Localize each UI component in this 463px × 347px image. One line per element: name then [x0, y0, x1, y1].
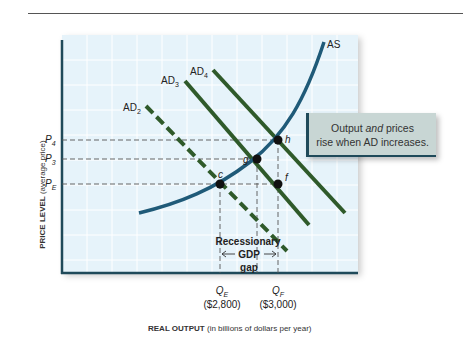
callout-box: Output and prices rise when AD increases… [306, 113, 436, 157]
gap-label-2: GDP [238, 249, 260, 260]
point-g-label: g [243, 154, 249, 165]
point-h-label: h [285, 134, 291, 145]
callout-post: prices [383, 122, 414, 134]
x-tick-qf: QF [272, 285, 285, 298]
x-tick-qe: QE [216, 285, 229, 298]
gap-label-3: gap [240, 262, 258, 273]
point-c [216, 180, 225, 189]
x-axis-label-rest: (in billions of dollars per year) [205, 324, 312, 333]
y-tick-p3: P3 [45, 153, 56, 166]
y-axis-label-bold: PRICE LEVEL [38, 196, 47, 248]
point-c-label: c [218, 169, 223, 180]
y-axis-label-rest: (average price) [38, 140, 47, 196]
callout-em: and [365, 122, 383, 134]
callout-line2: rise when AD increases. [316, 136, 429, 148]
y-tick-p4: P4 [45, 134, 56, 147]
x-tick-qe-value: ($2,800) [203, 299, 240, 310]
x-tick-qf-value: ($3,000) [259, 299, 296, 310]
x-axis-label-bold: REAL OUTPUT [148, 324, 205, 333]
as-label: AS [327, 39, 341, 50]
x-axis-label: REAL OUTPUT (in billions of dollars per … [148, 324, 311, 333]
point-h [274, 136, 283, 145]
gap-label-1: Recessionary [215, 236, 280, 247]
y-tick-pe: PE [45, 178, 57, 191]
point-f [274, 180, 283, 189]
y-axis-label: PRICE LEVEL (average price) [38, 125, 47, 265]
callout-pre: Output [331, 122, 365, 134]
chart-svg: c g h f AS AD2 AD3 AD4 P4 P3 PE Recessio… [0, 0, 463, 347]
point-g [253, 155, 262, 164]
